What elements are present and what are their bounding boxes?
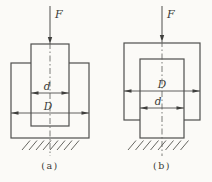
caption-b: (b) (153, 160, 171, 171)
diagram-b: F D d (b) (124, 6, 200, 171)
outer-dimension-label-a: D (43, 100, 53, 112)
ground-hatching-a (22, 141, 79, 151)
diagram-a: F d D (a) (11, 6, 89, 171)
dim-arrow-left-icon-a2 (11, 111, 19, 115)
force-arrow-icon-b (160, 35, 164, 42)
inner-dimension-label-b: d (155, 95, 162, 107)
outer-dimension-label-b: D (157, 78, 167, 90)
ground-hatching-b (128, 141, 189, 151)
dim-arrow-left-icon-b1 (124, 89, 132, 93)
force-arrow-icon-a (48, 37, 52, 44)
press-fit-figure: F d D (a) (0, 0, 212, 182)
dim-arrow-right-icon-b1 (193, 89, 201, 93)
diagram-canvas: F d D (a) (0, 0, 212, 182)
inner-dimension-label-a: d (44, 80, 51, 92)
force-label-a: F (54, 8, 63, 21)
force-label-b: F (166, 8, 175, 21)
dim-arrow-right-icon-a2 (82, 111, 90, 115)
caption-a: (a) (41, 160, 59, 171)
